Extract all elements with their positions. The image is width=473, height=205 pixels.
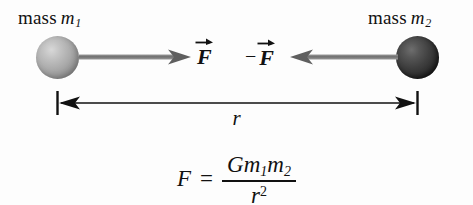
gravitation-figure: massm1 massm2 <box>0 0 473 205</box>
mass-label-m1-subscript: 1 <box>75 16 82 30</box>
equation-numerator-m2: m <box>267 152 284 177</box>
equation-denominator: r2 <box>251 182 267 205</box>
force-label-F: F <box>196 46 213 68</box>
equation-denominator-r: r <box>251 183 260 205</box>
mass-label-m2-prefix: mass <box>368 7 407 28</box>
force-label-negative-F: − F <box>245 46 275 69</box>
gravitation-equation: F = Gm1m2 r2 <box>0 152 473 205</box>
sphere-mass-m2 <box>396 36 439 79</box>
equation-numerator-m2-subscript: 2 <box>284 164 291 179</box>
force-symbol-negative-F-text: F <box>259 45 274 70</box>
mass-label-m1: massm1 <box>18 8 81 29</box>
equation-numerator: Gm1m2 <box>222 153 296 180</box>
mass-label-m2: massm2 <box>368 8 431 29</box>
equation-denominator-exponent: 2 <box>260 184 267 199</box>
vector-arrow-overbar-icon <box>257 38 276 46</box>
mass-label-m2-subscript: 2 <box>425 16 432 30</box>
force-minus-sign: − <box>245 45 258 67</box>
equation-numerator-m1: m <box>244 152 261 177</box>
mass-label-m2-symbol: m <box>407 7 425 28</box>
mass-label-m1-prefix: mass <box>18 7 57 28</box>
equation-lhs: F <box>177 167 200 190</box>
force-arrow-right <box>79 50 191 65</box>
equation-fraction: Gm1m2 r2 <box>222 153 296 205</box>
distance-label-r: r <box>0 108 473 129</box>
force-arrow-left <box>290 50 398 65</box>
force-symbol-negative-F: F <box>258 47 275 69</box>
equation-equals-sign: = <box>200 167 222 190</box>
force-symbol-F: F <box>196 46 213 68</box>
mass-label-m1-symbol: m <box>57 7 75 28</box>
vector-arrow-overbar-icon <box>195 37 214 45</box>
sphere-mass-m1 <box>36 36 79 79</box>
equation-constant-G: G <box>227 152 244 177</box>
force-symbol-F-text: F <box>197 44 212 69</box>
